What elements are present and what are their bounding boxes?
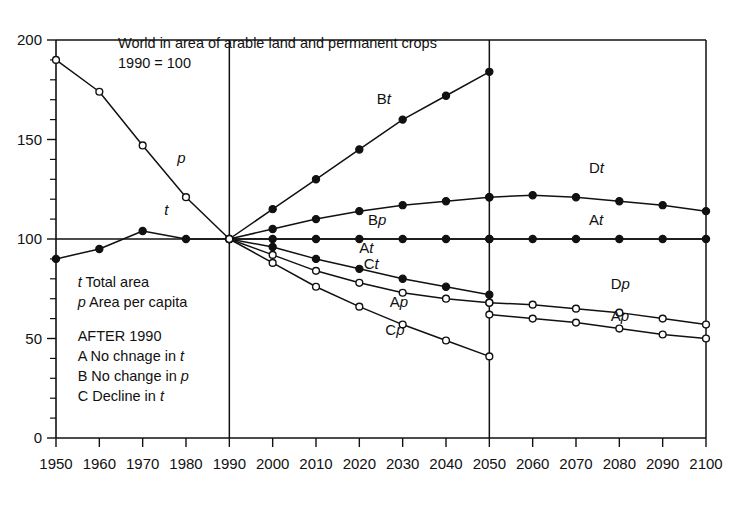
- data-point: [529, 315, 536, 322]
- legend-key: p: [77, 294, 86, 310]
- data-point: [442, 283, 449, 290]
- data-point: [269, 235, 276, 242]
- data-point: [659, 331, 666, 338]
- data-point: [356, 265, 363, 272]
- data-point: [96, 88, 103, 95]
- data-point: [572, 235, 579, 242]
- label-prefix: A: [359, 239, 369, 256]
- legend-item-key: B: [78, 368, 88, 384]
- series-label-Ap-right: Ap: [611, 307, 629, 324]
- data-point: [312, 255, 319, 262]
- x-tick-label: 2030: [386, 455, 419, 472]
- data-point: [399, 202, 406, 209]
- data-point: [659, 202, 666, 209]
- x-tick-label: 2070: [559, 455, 592, 472]
- data-point: [572, 194, 579, 201]
- data-point: [269, 243, 276, 250]
- label-prefix: B: [377, 90, 387, 107]
- x-tick-label: 1990: [213, 455, 246, 472]
- data-point: [486, 235, 493, 242]
- data-point: [269, 252, 276, 259]
- data-point: [139, 227, 146, 234]
- label-italic: p: [621, 275, 630, 292]
- data-point: [312, 176, 319, 183]
- data-point: [702, 208, 709, 215]
- chart-subtitle: 1990 = 100: [118, 55, 191, 71]
- data-point: [442, 92, 449, 99]
- series-label-p: p: [176, 149, 185, 166]
- legend-item: A No chnage in t: [78, 348, 185, 364]
- legend-item-key: C: [78, 388, 88, 404]
- series-label-At-right: At: [589, 211, 604, 228]
- data-point: [52, 255, 59, 262]
- legend-item: B No change in p: [78, 368, 189, 384]
- series-label-Dp: Dp: [611, 275, 630, 292]
- legend-item: C Decline in t: [78, 388, 165, 404]
- x-tick-label: 2040: [429, 455, 462, 472]
- label-prefix: C: [385, 321, 396, 338]
- data-point: [703, 335, 710, 342]
- label-prefix: D: [589, 159, 600, 176]
- series-label-Ct: Ct: [364, 255, 380, 272]
- data-point: [703, 321, 710, 328]
- series-label-Ap: Ap: [390, 293, 408, 310]
- data-point: [226, 236, 233, 243]
- data-point: [182, 235, 189, 242]
- data-point: [442, 198, 449, 205]
- data-point: [529, 235, 536, 242]
- data-point: [443, 295, 450, 302]
- label-italic: p: [176, 149, 185, 166]
- legend-item-text: No chnage in: [87, 348, 181, 364]
- series-label-Dt: Dt: [589, 159, 605, 176]
- y-tick-label: 150: [17, 131, 42, 148]
- x-tick-label: 2090: [646, 455, 679, 472]
- legend-item-suffix: p: [180, 368, 189, 384]
- chart-figure: 050100150200 195019601970198019902000201…: [0, 0, 730, 512]
- legend-row-text: Area per capita: [86, 294, 188, 310]
- series-label-At: At: [359, 239, 374, 256]
- x-tick-label: 1980: [169, 455, 202, 472]
- legend-item-text: Decline in: [88, 388, 160, 404]
- legend-heading: AFTER 1990: [78, 328, 162, 344]
- chart-title: World in area of arable land and permane…: [118, 35, 437, 51]
- label-italic: p: [399, 293, 408, 310]
- legend-row: p Area per capita: [77, 294, 189, 310]
- label-prefix: D: [611, 275, 622, 292]
- data-point: [399, 275, 406, 282]
- legend-row-text: Total area: [82, 274, 150, 290]
- data-point: [659, 315, 666, 322]
- data-point: [616, 325, 623, 332]
- data-point: [183, 194, 190, 201]
- data-point: [139, 142, 146, 149]
- data-point: [486, 299, 493, 306]
- data-point: [616, 198, 623, 205]
- x-tick-label: 2010: [299, 455, 332, 472]
- series-label-Bt: Bt: [377, 90, 392, 107]
- series-label-Cp: Cp: [385, 321, 404, 338]
- y-tick-label: 100: [17, 230, 42, 247]
- data-point: [96, 245, 103, 252]
- series-label-Bp: Bp: [368, 211, 386, 228]
- data-point: [399, 235, 406, 242]
- x-tick-label: 2020: [343, 455, 376, 472]
- label-prefix: C: [364, 255, 375, 272]
- label-prefix: A: [611, 307, 621, 324]
- x-tick-label: 1960: [83, 455, 116, 472]
- data-point: [356, 146, 363, 153]
- data-point: [356, 303, 363, 310]
- y-tick-label: 50: [25, 330, 42, 347]
- data-point: [312, 235, 319, 242]
- data-point: [659, 235, 666, 242]
- data-point: [269, 225, 276, 232]
- label-prefix: A: [390, 293, 400, 310]
- data-point: [486, 311, 493, 318]
- data-point: [443, 337, 450, 344]
- x-tick-label: 2100: [689, 455, 722, 472]
- data-point: [399, 116, 406, 123]
- data-point: [442, 235, 449, 242]
- x-tick-label: 2050: [473, 455, 506, 472]
- label-italic: p: [377, 211, 386, 228]
- legend-row: t Total area: [78, 274, 150, 290]
- label-italic: p: [395, 321, 404, 338]
- data-point: [269, 259, 276, 266]
